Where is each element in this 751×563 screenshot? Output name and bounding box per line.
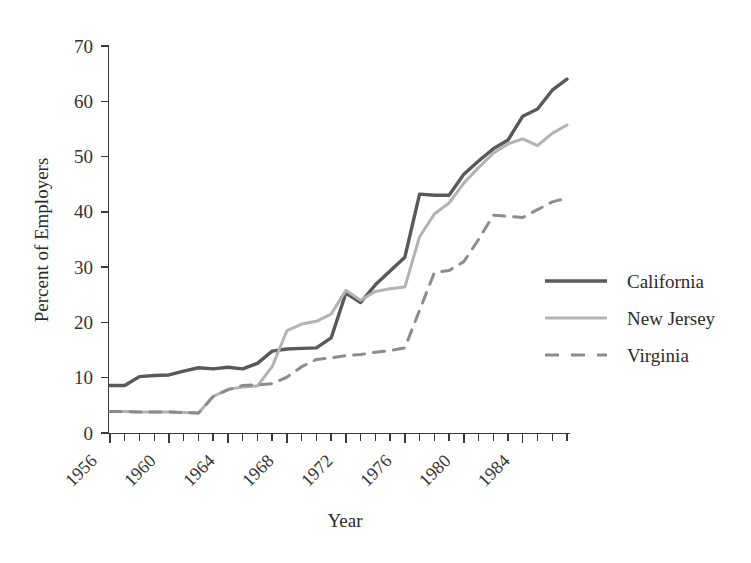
y-tick-label-group: 010203040506070 <box>74 36 93 444</box>
y-tick-label: 40 <box>74 201 93 222</box>
y-tick-label: 60 <box>74 91 93 112</box>
legend-label-virginia: Virginia <box>627 345 689 366</box>
x-axis-title: Year <box>327 510 363 531</box>
x-tick-label: 1984 <box>474 451 514 491</box>
x-tick-label-group: 19561960196419681972197619801984 <box>61 451 513 491</box>
legend-label-california: California <box>627 271 705 292</box>
y-axis-title: Percent of Employers <box>31 158 52 323</box>
x-tick-label: 1976 <box>356 451 396 491</box>
y-tick-label: 50 <box>74 146 93 167</box>
x-tick-label: 1980 <box>415 451 455 491</box>
legend-label-new-jersey: New Jersey <box>627 308 716 329</box>
y-tick-label: 70 <box>74 36 93 57</box>
chart-canvas: 010203040506070 195619601964196819721976… <box>0 0 751 563</box>
y-tick-label: 10 <box>74 367 93 388</box>
series-group <box>110 79 567 413</box>
x-tick-label: 1964 <box>179 451 219 491</box>
line-chart: 010203040506070 195619601964196819721976… <box>0 0 751 563</box>
y-tick-label: 20 <box>74 312 93 333</box>
series-line-new-jersey <box>110 125 567 413</box>
series-line-virginia <box>110 198 567 413</box>
legend: CaliforniaNew JerseyVirginia <box>545 271 716 366</box>
y-tick-label: 0 <box>84 423 94 444</box>
y-tick-group <box>101 46 109 433</box>
x-tick-group <box>110 434 567 444</box>
series-line-california <box>110 79 567 385</box>
x-tick-label: 1956 <box>61 451 101 491</box>
x-tick-label: 1968 <box>238 451 278 491</box>
y-tick-label: 30 <box>74 257 93 278</box>
x-tick-label: 1972 <box>297 451 337 491</box>
x-tick-label: 1960 <box>120 451 160 491</box>
